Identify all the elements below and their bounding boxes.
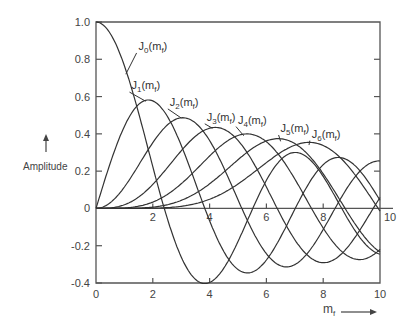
x-tick-label: 10 — [374, 288, 386, 300]
x-tick-label-zero-line: 10 — [384, 211, 396, 223]
x-tick-label: 4 — [207, 288, 213, 300]
up-arrow-icon — [43, 134, 49, 141]
plot-frame — [96, 22, 380, 283]
label-leader-line — [309, 141, 310, 145]
bessel-chart: 1.00.80.60.40.20-0.2-0.40224466881010 J0… — [0, 0, 414, 334]
x-tick-label-zero-line: 8 — [320, 211, 326, 223]
x-tick-label: 0 — [93, 288, 99, 300]
x-tick-label-zero-line: 2 — [150, 211, 156, 223]
curve-label-j0: J0(mf) — [139, 40, 168, 55]
curve-j0mf — [96, 22, 380, 284]
y-tick-label: 0.8 — [75, 53, 90, 65]
curve-labels: J0(mf)J1(mf)J2(mf)J3(mf)J4(mf)J5(mf)J6(m… — [126, 40, 341, 145]
plot-axes: 1.00.80.60.40.20-0.2-0.40224466881010 — [71, 16, 396, 300]
y-tick-label: 0.4 — [75, 128, 90, 140]
y-tick-label: -0.4 — [71, 277, 90, 289]
curve-label-j6: J6(mf) — [312, 128, 341, 143]
y-tick-label: -0.2 — [71, 240, 90, 252]
x-tick-label: 6 — [263, 288, 269, 300]
x-axis-title-base: m — [323, 302, 333, 316]
x-axis-title-sub: f — [333, 309, 336, 318]
curve-label-j4: J4(mf) — [238, 114, 267, 129]
curve-label-j3: J3(mf) — [207, 111, 236, 126]
curve-label-j5: J5(mf) — [281, 122, 310, 137]
y-tick-label: 0 — [84, 202, 90, 214]
label-leader-line — [126, 53, 137, 74]
y-axis-title: Amplitude — [23, 161, 68, 172]
right-arrow-icon — [370, 309, 377, 315]
x-tick-label: 2 — [150, 288, 156, 300]
curve-label-j2: J2(mf) — [170, 96, 199, 111]
x-axis-title: mf — [323, 302, 336, 318]
y-tick-label: 0.2 — [75, 165, 90, 177]
curve-label-j1: J1(mf) — [132, 79, 161, 94]
x-tick-label: 8 — [320, 288, 326, 300]
y-tick-label: 0.6 — [75, 91, 90, 103]
x-tick-label-zero-line: 6 — [263, 211, 269, 223]
y-tick-label: 1.0 — [75, 16, 90, 28]
bessel-curves — [96, 22, 380, 284]
